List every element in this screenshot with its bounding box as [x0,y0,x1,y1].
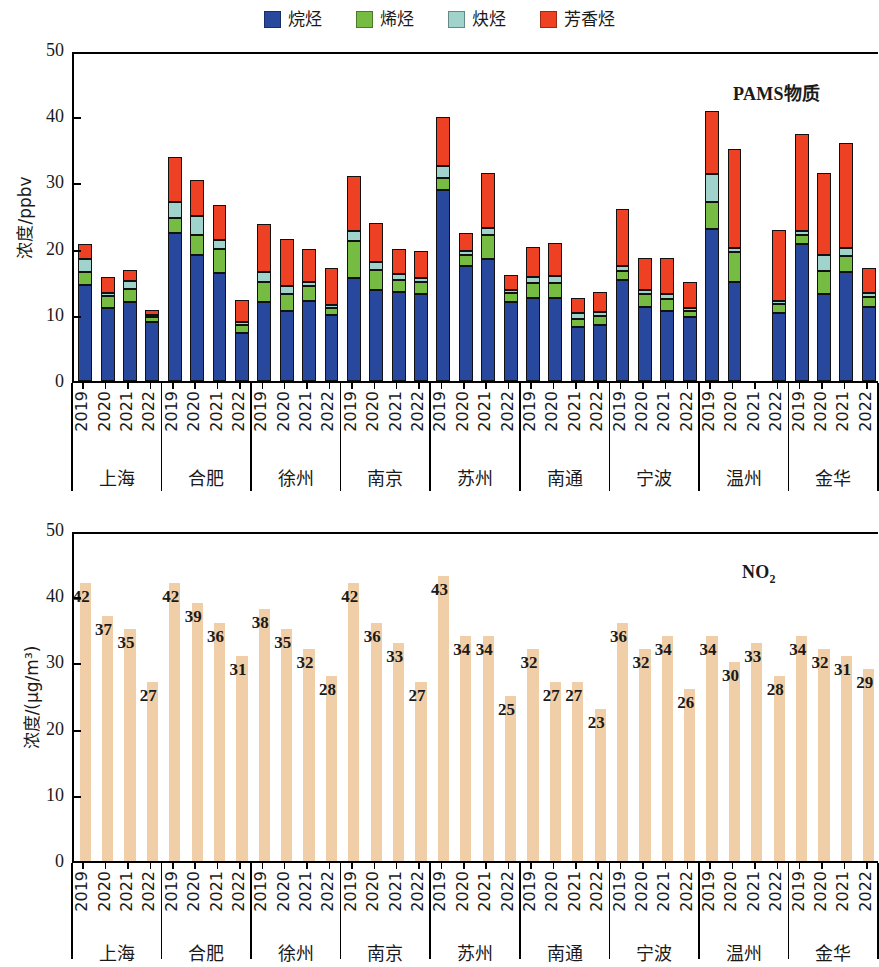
bar-segment [481,235,495,259]
no2-bar-value-label: 35 [115,633,137,653]
bar-segment [257,272,271,283]
bar-segment [571,313,585,319]
bar-segment [660,294,674,299]
bar-segment [436,117,450,166]
bar-segment [862,307,876,381]
x-axis-tick [485,863,487,869]
x-axis-year-label: 2019 [522,391,538,432]
no2-bar-value-label: 34 [451,640,473,660]
bar-segment [862,268,876,293]
y-axis-tick-label: 50 [30,40,64,61]
bar-segment [190,180,204,216]
x-axis-year-label: 2020 [186,871,202,912]
no2-bar [706,636,717,861]
bar-segment [795,235,809,244]
x-axis-tick [351,383,353,389]
x-axis-tick [306,863,308,869]
x-axis-tick [530,863,532,869]
x-axis-year-label: 2019 [701,871,717,912]
bar-segment [101,293,115,296]
bar-segment [862,297,876,307]
bar-segment [190,235,204,256]
y-axis-tick-label: 30 [30,172,64,193]
no2-bar [303,649,314,861]
bar-segment [817,173,831,254]
bar-segment [839,272,853,381]
bar-segment [302,286,316,301]
no2-bar-value-label: 31 [227,660,249,680]
y-axis-tick [72,796,81,798]
bar-segment [257,302,271,381]
bar-segment [235,325,249,333]
y-axis-tick [72,730,81,732]
stacked-bar [436,117,450,381]
x-axis-city-label: 金华 [788,939,878,965]
x-axis-tick [866,383,868,389]
y-axis-tick-label: 40 [30,586,64,607]
x-axis-year-label: 2020 [634,391,650,432]
x-axis-tick [284,383,286,389]
x-axis-year-label: 2021 [477,391,493,432]
no2-bar-value-label: 27 [540,686,562,706]
x-axis-year-label: 2019 [701,391,717,432]
stacked-bar [616,209,630,381]
bar-segment [683,317,697,381]
x-axis-year-label: 2021 [656,871,672,912]
bar-segment [571,327,585,381]
x-axis-year-label: 2022 [410,391,426,432]
bar-segment [616,280,630,381]
bar-segment [795,244,809,381]
stacked-bar [414,251,428,381]
x-axis-year-label: 2022 [141,871,157,912]
x-axis-tick [844,383,846,389]
x-axis-year-label: 2021 [209,391,225,432]
x-axis-tick [217,383,219,389]
y-axis-tick-label: 20 [30,239,64,260]
x-axis-tick [262,383,264,389]
y-axis-tick [72,117,81,119]
bar-segment [213,273,227,381]
bar-segment [526,247,540,277]
bar-segment [862,293,876,297]
x-axis-tick [687,383,689,389]
bar-segment [795,231,809,235]
bar-segment [190,216,204,235]
no2-bar [841,656,852,861]
x-axis-year-label: 2021 [835,871,851,912]
x-axis-tick [374,383,376,389]
no2-bar-value-label: 35 [272,633,294,653]
bar-segment [190,255,204,381]
no2-bar [124,629,135,861]
x-axis-tick [127,863,129,869]
no2-bar [236,656,247,861]
x-axis-year-label: 2019 [791,391,807,432]
x-axis-year-label: 2019 [791,871,807,912]
x-axis-city-label: 苏州 [430,464,520,490]
stacked-bar [817,173,831,381]
bar-segment [347,278,361,381]
bar-segment [683,308,697,311]
stacked-bar [347,176,361,381]
x-axis-tick [732,383,734,389]
x-axis-tick [508,863,510,869]
bar-segment [78,244,92,259]
top-annotation: PAMS物质 [733,79,820,105]
bar-segment [325,268,339,304]
x-axis-tick [351,863,353,869]
x-axis-year-label: 2020 [97,871,113,912]
stacked-bar [168,157,182,381]
bar-segment [817,294,831,381]
bar-segment [728,252,742,282]
bar-segment [772,313,786,381]
bar-segment [817,271,831,294]
x-axis-year-label: 2019 [612,871,628,912]
stacked-bar [257,224,271,381]
bar-segment [414,278,428,282]
stacked-bar [862,268,876,381]
x-axis-year-label: 2020 [813,871,829,912]
x-axis-tick [329,383,331,389]
stacked-bar [481,173,495,381]
no2-bar [371,623,382,861]
x-axis-tick [262,863,264,869]
bar-segment [302,249,316,281]
